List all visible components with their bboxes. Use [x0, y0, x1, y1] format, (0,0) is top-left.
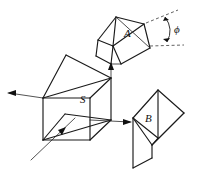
phi-guide-line-lower	[150, 45, 184, 46]
phi-guide-line-upper	[146, 10, 178, 23]
prism-b-edge-center-to-bottom	[152, 138, 158, 145]
prism-a-edge-inner-vertical	[113, 17, 116, 46]
input-ray-line	[31, 118, 75, 160]
prism-a-edge-mid-down	[113, 46, 121, 64]
output-ray-left-arrowhead	[7, 90, 16, 96]
prism-a-edge-front-vertical	[111, 46, 113, 64]
output-ray-right-arrowhead	[123, 119, 132, 125]
beam-splitter-cube-s: S	[43, 55, 111, 140]
prism-a-label: A	[123, 27, 131, 39]
phi-arc-arrowhead-top	[163, 17, 169, 21]
cube-s-internal-left	[43, 114, 65, 140]
prism-a-edge-left-lower	[98, 40, 113, 46]
cube-s-label: S	[80, 93, 86, 105]
prism-b: B	[133, 90, 184, 168]
prism-a-edge-far-left-vertical	[96, 40, 98, 56]
prism-b-edge-front-bottom	[133, 158, 152, 168]
ray-diagram-svg: A ϕ	[0, 0, 201, 179]
prism-a-edge-bottom-right	[121, 48, 150, 64]
figure-root: A ϕ	[0, 0, 201, 179]
prism-a-edge-upper-left	[98, 17, 116, 40]
output-ray-left	[7, 90, 43, 98]
phi-arc-arrowhead-bottom	[163, 38, 170, 42]
cube-s-top-back-right	[66, 55, 111, 78]
cube-s-internal-top	[65, 114, 111, 120]
input-ray	[31, 118, 75, 160]
angle-annotation-phi: ϕ	[146, 10, 184, 46]
prism-b-label: B	[145, 112, 152, 124]
cube-s-top-back-left	[43, 55, 66, 98]
prism-a: A	[96, 17, 150, 64]
prism-a-edge-bottom-left	[96, 56, 111, 64]
prism-a-edge-right-vertical	[144, 24, 150, 48]
phi-label: ϕ	[174, 23, 180, 35]
prism-b-edge-upper-right	[158, 90, 184, 113]
